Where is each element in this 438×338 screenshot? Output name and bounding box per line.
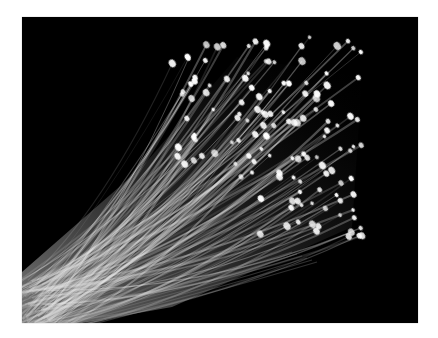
fiber-tip	[358, 225, 364, 231]
fiber-tip	[202, 40, 211, 50]
fiber-tip	[183, 52, 192, 61]
fiber-optic-illustration	[22, 17, 418, 323]
fiber-tip	[167, 58, 177, 68]
fiber-tip	[202, 57, 209, 64]
fiber-optic-photo	[22, 17, 418, 323]
